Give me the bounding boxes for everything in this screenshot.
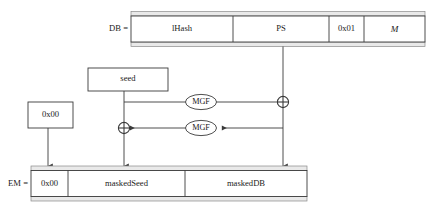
em-bar-group: EM = 0x00 maskedSeed maskedDB xyxy=(8,166,307,201)
em-bar-top-band xyxy=(31,166,307,171)
xor-left-group xyxy=(118,122,129,133)
mgf-upper-group: MGF xyxy=(186,94,217,109)
seed-box-label: seed xyxy=(120,73,136,83)
db-segment-lhash-label: lHash xyxy=(172,23,193,33)
mgf-lower-label: MGF xyxy=(192,123,210,132)
db-equals-label: DB = xyxy=(109,23,128,33)
em-segment-maskedseed-label: maskedSeed xyxy=(105,178,149,188)
mgf-lower-group: MGF xyxy=(186,120,217,135)
oaep-diagram: DB = lHash PS 0x01 M seed 0x00 xyxy=(0,0,439,212)
seed-box-group: seed xyxy=(88,68,168,91)
zero-box-label: 0x00 xyxy=(42,109,59,119)
xor-right-group xyxy=(277,96,288,107)
wire-group xyxy=(48,47,283,167)
em-bar-bottom-band xyxy=(31,197,307,202)
em-equals-label: EM = xyxy=(8,178,28,188)
db-bar-top-band xyxy=(131,12,425,17)
db-segment-ps-label: PS xyxy=(276,23,286,33)
db-segment-message-label: M xyxy=(390,24,400,34)
db-segment-byte01-label: 0x01 xyxy=(338,23,355,33)
mgf-upper-label: MGF xyxy=(192,97,210,106)
em-segment-maskeddb-label: maskedDB xyxy=(227,178,265,188)
zero-box-group: 0x00 xyxy=(28,102,73,128)
em-segment-byte00-label: 0x00 xyxy=(41,178,58,188)
db-bar-bottom-band xyxy=(131,42,425,47)
oaep-diagram-svg: DB = lHash PS 0x01 M seed 0x00 xyxy=(0,0,439,212)
em-bar-body xyxy=(31,171,307,197)
db-bar-group: DB = lHash PS 0x01 M xyxy=(109,12,425,47)
